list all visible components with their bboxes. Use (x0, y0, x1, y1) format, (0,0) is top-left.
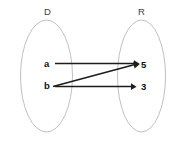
range-set-label: R (138, 7, 145, 17)
diagram-svg (0, 0, 175, 143)
node-label-3: 3 (141, 82, 146, 92)
node-label-5: 5 (141, 60, 146, 70)
domain-set-ellipse (21, 20, 73, 132)
mapping-diagram-canvas: D R a b 5 3 (0, 0, 175, 143)
node-label-a: a (44, 59, 49, 69)
edge-b-to-5 (53, 65, 134, 87)
arrowhead-b-to-3 (131, 83, 137, 90)
range-set-ellipse (118, 20, 166, 132)
node-label-b: b (44, 81, 50, 91)
domain-set-label: D (44, 7, 51, 17)
